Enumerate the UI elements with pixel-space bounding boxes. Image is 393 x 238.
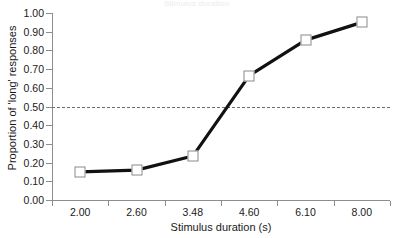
- y-axis-tick: [46, 163, 52, 164]
- x-axis-tick-label: 6.10: [295, 206, 315, 218]
- y-axis-tick: [46, 181, 52, 182]
- x-axis-tick: [108, 201, 109, 206]
- data-point-marker: [244, 70, 255, 81]
- y-axis-tick: [46, 88, 52, 89]
- x-axis-tick: [52, 201, 53, 206]
- data-point-marker: [300, 35, 311, 46]
- x-axis-tick: [165, 201, 166, 206]
- y-axis-tick: [46, 125, 52, 126]
- y-axis-tick: [46, 32, 52, 33]
- y-axis-tick: [46, 13, 52, 14]
- x-axis-tick: [334, 201, 335, 206]
- x-axis-tick-label: 8.00: [352, 206, 372, 218]
- y-axis-tick: [46, 50, 52, 51]
- psychometric-function-chart: Stimulus duration 0.000.100.200.300.400.…: [0, 0, 393, 238]
- x-axis-tick-label: 2.60: [126, 206, 146, 218]
- data-point-marker: [75, 166, 86, 177]
- y-axis-tick: [46, 107, 52, 108]
- y-axis-tick: [46, 69, 52, 70]
- x-axis-title: Stimulus duration (s): [52, 221, 390, 233]
- x-axis-tick: [277, 201, 278, 206]
- data-point-marker: [356, 17, 367, 28]
- x-axis-tick-label: 3.48: [183, 206, 203, 218]
- x-axis-tick-label: 4.60: [239, 206, 259, 218]
- data-point-marker: [187, 151, 198, 162]
- x-axis-tick-label: 2.00: [70, 206, 90, 218]
- y-axis-tick: [46, 200, 52, 201]
- y-axis-tick: [46, 144, 52, 145]
- data-point-marker: [131, 165, 142, 176]
- x-axis-tick: [390, 201, 391, 206]
- x-axis-tick: [221, 201, 222, 206]
